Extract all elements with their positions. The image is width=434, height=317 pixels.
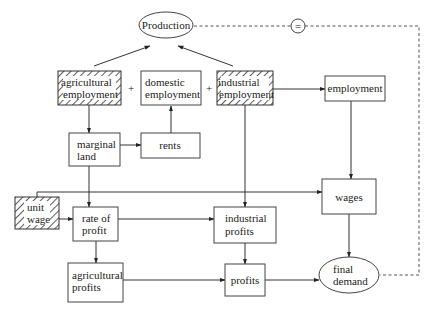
svg-text:demand: demand	[333, 275, 368, 287]
svg-text:unit: unit	[27, 201, 44, 213]
svg-text:profits: profits	[231, 274, 260, 286]
node-industrial-profits: industrial profits	[214, 207, 276, 243]
svg-text:land: land	[77, 150, 96, 162]
plus-operator: +	[206, 82, 212, 94]
node-rents: rents	[141, 133, 200, 158]
svg-text:Production: Production	[142, 19, 191, 31]
svg-text:employment: employment	[63, 88, 118, 100]
node-industrial-employment: industrial employment	[217, 71, 274, 105]
node-final-demand: final demand	[319, 257, 379, 293]
node-profits: profits	[225, 264, 265, 296]
node-production: Production	[139, 12, 193, 38]
plus-operator: +	[128, 82, 134, 94]
node-unit-wage: unit wage	[15, 197, 59, 229]
svg-text:employment: employment	[219, 88, 274, 100]
node-employment: employment	[325, 76, 385, 101]
svg-text:final: final	[333, 263, 353, 275]
svg-text:employment: employment	[328, 82, 383, 94]
node-agricultural-employment: agricultural employment	[58, 71, 121, 105]
node-wages: wages	[322, 179, 376, 214]
svg-text:wages: wages	[335, 191, 363, 203]
edge-ind-to-production	[178, 46, 233, 66]
svg-text:profit: profit	[82, 224, 106, 236]
svg-text:profits: profits	[225, 225, 254, 237]
svg-text:wage: wage	[27, 213, 50, 225]
svg-text:domestic: domestic	[145, 76, 185, 88]
node-equals: =	[291, 19, 305, 33]
node-marginal-land: marginal land	[69, 133, 120, 166]
svg-text:employment: employment	[145, 88, 200, 100]
node-agricultural-profits: agricultural profits	[68, 263, 123, 302]
svg-text:agricultural: agricultural	[72, 269, 123, 281]
svg-text:industrial: industrial	[218, 76, 260, 88]
svg-text:industrial: industrial	[225, 212, 267, 224]
node-rate-of-profit: rate of profit	[73, 207, 118, 241]
svg-text:rents: rents	[159, 139, 180, 151]
svg-text:rate of: rate of	[82, 212, 111, 224]
edge-agri-to-production	[94, 46, 150, 66]
svg-text:profits: profits	[72, 281, 101, 293]
flow-diagram: Production = agricultural employment + d…	[0, 0, 434, 317]
node-domestic-employment: domestic employment	[141, 71, 201, 105]
edge-unitwage-to-wages	[37, 192, 322, 197]
svg-text:agricultural: agricultural	[61, 76, 112, 88]
svg-text:=: =	[295, 20, 301, 32]
svg-text:marginal: marginal	[77, 138, 116, 150]
